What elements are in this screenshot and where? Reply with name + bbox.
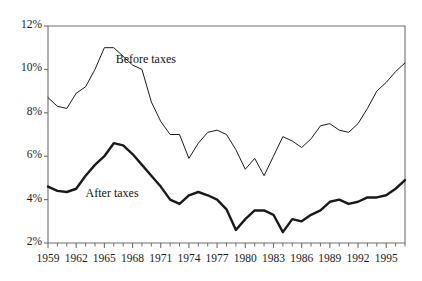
series-lines — [48, 48, 405, 232]
y-tick-label: 8% — [2, 105, 42, 117]
series-line-0 — [48, 48, 405, 176]
y-axis-ticks — [44, 26, 48, 243]
y-tick-label: 6% — [2, 148, 42, 160]
series-label-after-taxes: After taxes — [86, 186, 139, 201]
x-tick-label: 1995 — [366, 252, 406, 264]
x-axis-ticks — [48, 243, 405, 248]
chart-container: 12%10%8%6%4%2% 1959196219651968197119741… — [0, 0, 422, 281]
y-tick-label: 4% — [2, 192, 42, 204]
y-tick-label: 12% — [2, 18, 42, 30]
series-label-before-taxes: Before taxes — [116, 52, 176, 67]
y-tick-label: 2% — [2, 235, 42, 247]
y-tick-label: 10% — [2, 61, 42, 73]
line-chart-canvas — [0, 0, 422, 281]
